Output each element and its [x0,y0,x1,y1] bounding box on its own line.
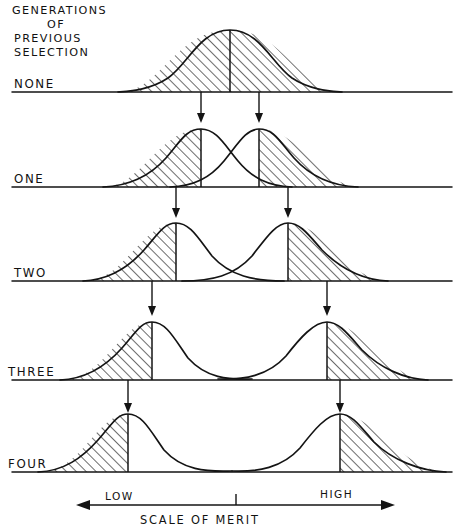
arrow-one-to-two-right [284,187,292,218]
arrow-two-to-three-right [323,281,331,316]
title-line-4: SELECTION [14,46,89,59]
arrow-three-to-four-right [336,380,344,413]
curve-fill-two-right [288,223,390,281]
title-line-2: OF [47,18,65,31]
row-label-three: THREE [7,365,55,379]
curve-fill-three-left [62,322,152,380]
diagram-svg: GENERATIONS OF PREVIOUS SELECTION NONE [0,0,463,532]
scale-of-merit-caption: SCALE OF MERIT [140,513,260,527]
title-line-1: GENERATIONS [12,4,107,17]
curve-fill-three-right [327,322,430,380]
curve-fill-four-left [40,414,128,472]
arrow-three-to-four-left [124,380,132,413]
curve-fill-one-left [105,129,201,187]
row-label-none: NONE [14,77,55,91]
selection-diagram: GENERATIONS OF PREVIOUS SELECTION NONE [0,0,463,532]
axis-low-label: LOW [105,490,134,502]
arrow-none-to-one-right [255,92,263,123]
generation-row-three: THREE [7,322,452,413]
generation-row-four: FOUR [8,414,452,472]
axis-high-label: HIGH [320,488,353,500]
axis-arrow-left [76,500,90,510]
row-label-four: FOUR [8,457,47,471]
curve-fill-two-left [85,223,176,281]
curve-fill-one-right [259,129,360,187]
row-label-two: TWO [13,266,47,280]
title-line-3: PREVIOUS [14,32,82,45]
title-block: GENERATIONS OF PREVIOUS SELECTION [12,4,107,59]
arrow-two-to-three-left [148,281,156,316]
axis-arrow-right [381,500,395,510]
generation-row-one: ONE [12,129,452,218]
arrow-one-to-two-left [172,187,180,218]
scale-of-merit-axis: LOW HIGH SCALE OF MERIT [76,488,395,527]
row-label-one: ONE [14,172,44,186]
generation-row-two: TWO [12,223,452,316]
arrow-none-to-one-left [197,92,205,123]
